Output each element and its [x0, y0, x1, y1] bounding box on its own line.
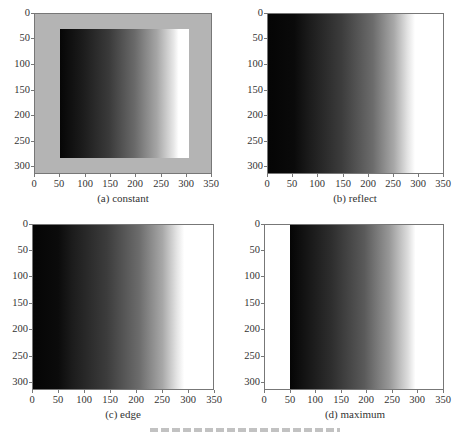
padded-image-d [290, 225, 444, 390]
y-tick: 300 [232, 377, 260, 387]
y-tick: 200 [2, 110, 30, 120]
y-tick: 250 [0, 351, 28, 361]
y-tick: 150 [235, 85, 263, 95]
y-tick: 0 [232, 219, 260, 229]
plot-area-d [264, 224, 444, 390]
y-tick: 250 [232, 351, 260, 361]
y-tick: 250 [235, 136, 263, 146]
plot-area-c [32, 224, 214, 390]
y-tick: 100 [235, 59, 263, 69]
y-tick: 100 [2, 59, 30, 69]
x-tick: 350 [199, 394, 229, 405]
padded-image-a [60, 29, 189, 158]
y-tick: 0 [2, 8, 30, 18]
y-tick: 0 [0, 219, 28, 229]
y-tick: 50 [0, 245, 28, 255]
y-tick: 200 [235, 110, 263, 120]
y-tick: 200 [232, 324, 260, 334]
figure-caption-cutoff [150, 428, 340, 432]
y-tick: 50 [235, 33, 263, 43]
y-tick: 150 [0, 298, 28, 308]
y-tick: 300 [235, 161, 263, 171]
y-tick: 250 [2, 136, 30, 146]
caption-c: (c) edge [23, 408, 223, 420]
y-tick: 300 [2, 161, 30, 171]
y-tick: 50 [232, 245, 260, 255]
caption-a: (a) constant [23, 192, 223, 204]
plot-area-b [267, 13, 444, 174]
y-tick: 50 [2, 33, 30, 43]
y-tick: 100 [0, 271, 28, 281]
x-tick: 350 [428, 394, 458, 405]
plot-area-a [34, 13, 212, 174]
y-tick: 0 [235, 8, 263, 18]
x-tick: 350 [428, 178, 458, 189]
caption-b: (b) reflect [255, 192, 455, 204]
x-tick: 350 [196, 178, 226, 189]
y-tick: 300 [0, 377, 28, 387]
caption-d: (d) maximum [255, 408, 455, 420]
y-tick: 150 [232, 298, 260, 308]
y-tick: 200 [0, 324, 28, 334]
y-tick: 100 [232, 271, 260, 281]
y-tick: 150 [2, 85, 30, 95]
